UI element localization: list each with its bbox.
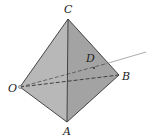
point-o: [19, 86, 22, 89]
label-c: C: [64, 3, 73, 16]
label-o: O: [8, 82, 17, 95]
label-d: D: [85, 52, 95, 65]
tetrahedron-diagram: C O B A D: [0, 0, 146, 139]
ray-od-visible: [105, 52, 146, 64]
point-d: [93, 67, 95, 69]
label-b: B: [121, 70, 130, 83]
face-oca: [20, 19, 68, 122]
face-cba: [67, 19, 119, 122]
label-a: A: [62, 125, 71, 138]
